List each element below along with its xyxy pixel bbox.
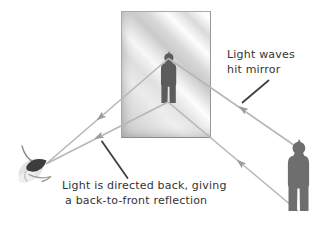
arrowhead-toward-eye-icon [93,132,105,143]
caption-directed-back-line1: Light is directed back, giving [62,178,227,193]
reflection-diagram: Light waves hit mirror Light is directed… [0,0,324,230]
caption-directed-back: Light is directed back, giving a back-to… [62,178,227,208]
leader-line-light-waves [243,81,269,103]
caption-light-waves: Light waves hit mirror [227,47,295,77]
caption-light-waves-line1: Light waves [227,47,295,62]
person-figure [288,139,309,211]
caption-directed-back-line2: a back-to-front reflection [62,193,227,208]
leader-line-directed-back [102,142,128,179]
caption-light-waves-line2: hit mirror [227,62,295,77]
eye-icon [14,146,51,186]
